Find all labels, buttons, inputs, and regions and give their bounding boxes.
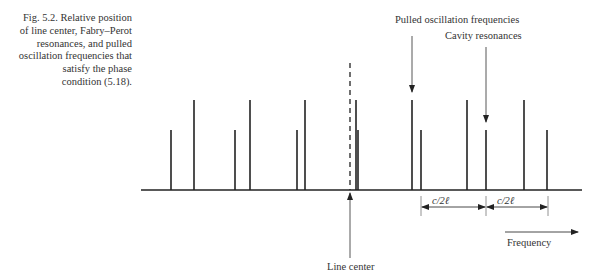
frequency-label: Frequency [507, 237, 551, 248]
spacing-label-1: c/2ℓ [432, 195, 449, 206]
spacing-label-2: c/2ℓ [497, 195, 514, 206]
frequency-diagram [0, 0, 604, 277]
pulled-frequencies-label: Pulled oscillation frequencies [395, 14, 519, 25]
cavity-resonances-label: Cavity resonances [445, 30, 522, 41]
line-center-label: Line center [327, 261, 375, 272]
spectral-lines [171, 100, 547, 190]
